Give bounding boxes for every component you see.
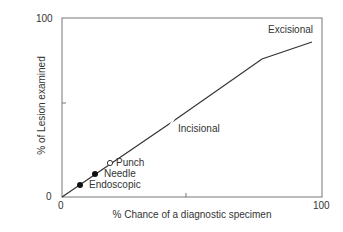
punch-marker	[107, 160, 112, 165]
punch-label: Punch	[116, 157, 144, 168]
incisional-marker	[170, 119, 174, 125]
excisional-label: Excisional	[268, 24, 313, 35]
incisional-label: Incisional	[178, 123, 220, 134]
endoscopic-label: Endoscopic	[89, 179, 141, 190]
x-axis-label: % Chance of a diagnostic specimen	[62, 209, 322, 220]
needle-marker	[92, 171, 98, 177]
y-max-tick: 100	[36, 13, 53, 24]
needle-label: Needle	[104, 168, 136, 179]
y-axis-label: % of Lesion examined	[36, 31, 47, 181]
endoscopic-marker	[77, 182, 83, 188]
y-min-tick: 0	[46, 191, 52, 202]
data-line	[62, 42, 312, 197]
